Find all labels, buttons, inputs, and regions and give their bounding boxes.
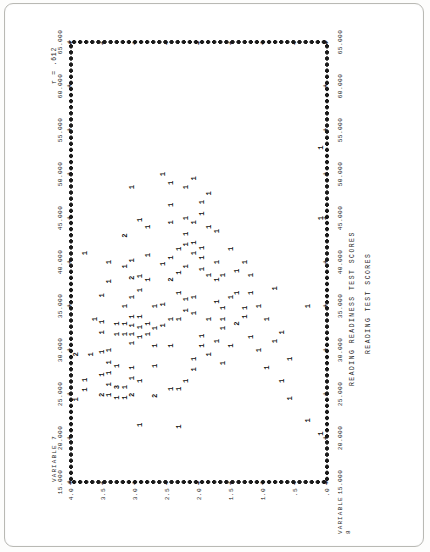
- y-tick-label: 2.5: [164, 488, 171, 516]
- data-point: 1: [220, 317, 227, 321]
- data-point: 1: [129, 341, 136, 345]
- y-tick-label: .5: [292, 488, 299, 516]
- data-point: 1: [234, 269, 241, 273]
- data-point: 1: [167, 255, 174, 259]
- y-variable-header-line2: 8: [345, 529, 352, 534]
- data-point: 1: [198, 200, 205, 204]
- data-point: 1: [160, 302, 167, 306]
- data-point: 1: [183, 216, 190, 220]
- y-tick-mark: +: [101, 481, 106, 485]
- x-tick-label: 20.000: [337, 426, 344, 451]
- x-tick-label: 55.000: [57, 118, 64, 143]
- data-point: 1: [98, 320, 105, 324]
- y-tick-mark: +: [229, 41, 234, 45]
- x-tick-label: 50.000: [337, 162, 344, 187]
- data-point: 1: [206, 273, 213, 277]
- x-tick-mark: +: [324, 216, 329, 220]
- data-point: 1: [106, 260, 113, 264]
- data-point: 1: [175, 387, 182, 391]
- data-point: 2: [73, 352, 80, 356]
- data-point: 1: [198, 343, 205, 347]
- data-point: 1: [144, 321, 151, 325]
- data-point: 1: [213, 260, 220, 264]
- y-tick-mark: +: [197, 481, 202, 485]
- x-tick-mark: +: [324, 436, 329, 440]
- data-point: 1: [167, 343, 174, 347]
- data-point: 1: [175, 270, 182, 274]
- x-tick-label: 35.000: [337, 294, 344, 319]
- y-tick-mark: +: [293, 481, 298, 485]
- x-tick-mark: +: [68, 304, 73, 308]
- data-point: 1: [220, 361, 227, 365]
- x-tick-mark: +: [324, 348, 329, 352]
- x-tick-mark: +: [324, 260, 329, 264]
- data-point: 1: [248, 335, 255, 339]
- y-tick-mark: +: [261, 41, 266, 45]
- x-tick-mark: +: [68, 260, 73, 264]
- data-point: 1: [263, 317, 270, 321]
- data-point: 1: [190, 357, 197, 361]
- data-point: 1: [213, 299, 220, 303]
- data-point: 1: [144, 332, 151, 336]
- data-point: 1: [175, 247, 182, 251]
- data-point: 1: [137, 423, 144, 427]
- data-point: 1: [220, 306, 227, 310]
- data-point: 2: [234, 321, 241, 325]
- data-point: 1: [175, 424, 182, 428]
- data-point: 1: [137, 288, 144, 292]
- data-point: 1: [73, 397, 80, 401]
- data-point: 1: [160, 172, 167, 176]
- data-point: 1: [183, 264, 190, 268]
- scanned-page: VARIABLE 7 VARIABLE 8 r = .612 121111121…: [0, 0, 430, 552]
- data-point: 1: [279, 330, 286, 334]
- x-tick-mark: +: [324, 128, 329, 132]
- data-point: 1: [190, 367, 197, 371]
- y-tick-label: 3.5: [100, 488, 107, 516]
- data-point: 2: [167, 277, 174, 281]
- y-tick-mark: +: [133, 41, 138, 45]
- data-point: 1: [129, 365, 136, 369]
- x-tick-mark: +: [324, 84, 329, 88]
- x-tick-mark: +: [68, 84, 73, 88]
- data-point: 1: [242, 260, 249, 264]
- data-point: 1: [152, 343, 159, 347]
- x-tick-label: 60.000: [57, 74, 64, 99]
- data-point: 1: [88, 352, 95, 356]
- data-point: 1: [317, 145, 324, 149]
- y-tick-mark: +: [325, 41, 330, 45]
- x-tick-label: 25.000: [337, 382, 344, 407]
- data-point: 1: [129, 258, 136, 262]
- data-point: 1: [175, 291, 182, 295]
- data-point: 1: [167, 220, 174, 224]
- data-point: 1: [256, 348, 263, 352]
- data-point: 1: [190, 220, 197, 224]
- data-point: 2: [129, 393, 136, 397]
- x-tick-mark: +: [68, 436, 73, 440]
- x-tick-mark: +: [68, 348, 73, 352]
- data-point: 1: [160, 262, 167, 266]
- data-point: 1: [206, 225, 213, 229]
- data-point: 1: [144, 277, 151, 281]
- data-point: 1: [228, 295, 235, 299]
- data-point: 1: [213, 339, 220, 343]
- x-tick-label: 35.000: [57, 294, 64, 319]
- data-point: 1: [190, 176, 197, 180]
- data-point: 1: [106, 279, 113, 283]
- data-point: 1: [248, 273, 255, 277]
- y-tick-mark: +: [197, 41, 202, 45]
- scatterplot-figure: VARIABLE 7 VARIABLE 8 r = .612 121111121…: [45, 16, 385, 536]
- x-tick-label: 45.000: [57, 206, 64, 231]
- x-tick-label: 15.000: [337, 470, 344, 495]
- data-point: 1: [234, 291, 241, 295]
- data-point: 1: [206, 352, 213, 356]
- y-tick-mark: +: [229, 481, 234, 485]
- x-tick-mark: +: [68, 216, 73, 220]
- data-point: 1: [213, 229, 220, 233]
- x-tick-label: 65.000: [57, 30, 64, 55]
- data-point: 1: [183, 232, 190, 236]
- data-point: 1: [304, 304, 311, 308]
- data-point: 1: [129, 295, 136, 299]
- x-tick-label: 40.000: [57, 250, 64, 275]
- data-point: 1: [198, 246, 205, 250]
- data-point: 1: [248, 291, 255, 295]
